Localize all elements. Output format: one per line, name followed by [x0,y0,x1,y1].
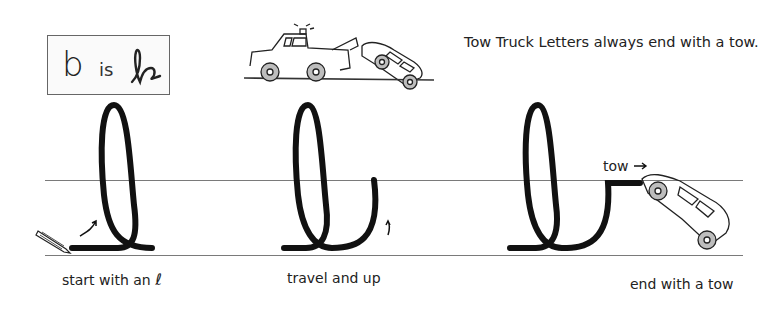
headline: Tow Truck Letters always end with a tow. [464,34,759,50]
step2-caption: travel and up [287,270,381,286]
step3-letter-stroke [500,95,740,275]
stroke-arrow-icon [80,221,96,236]
letter-rule-box: b is [47,35,170,95]
step2-letter-stroke [270,95,410,275]
tow-truck-illustration [244,10,434,90]
rule-connector: is [99,59,113,80]
step1-letter-stroke [30,95,190,275]
step1-caption: start with an ℓ [62,270,162,289]
right-arrow-icon [634,163,646,169]
cursive-l-glyph: ℓ [155,270,162,289]
tow-label: tow [603,158,629,174]
step3-caption: end with a tow [630,276,734,292]
cursive-b-glyph [128,44,164,88]
pencil-icon [36,231,70,253]
print-letter: b [62,44,84,84]
up-arrow-icon [386,221,390,235]
towed-car-illustration [642,175,729,249]
